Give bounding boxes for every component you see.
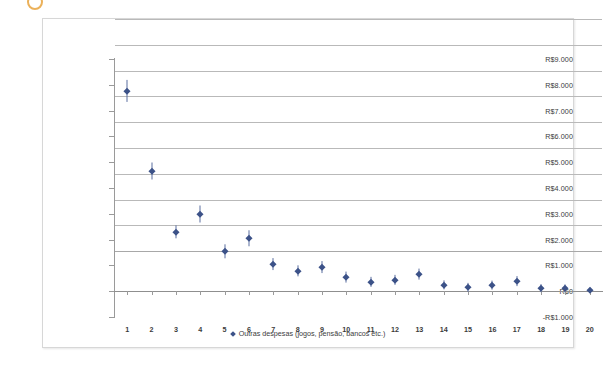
data-point-marker [148, 168, 154, 174]
data-point-marker [440, 282, 446, 288]
chart-legend: Outras despesas (jogos, pensão, bancos e… [43, 329, 573, 338]
chart-frame: R$9.000R$8.000R$7.000R$6.000R$5.000R$4.0… [42, 18, 574, 348]
data-point-marker [221, 248, 227, 254]
data-point-marker [197, 211, 203, 217]
data-point-marker [489, 282, 495, 288]
data-point-marker [562, 285, 568, 291]
legend-label: Outras despesas (jogos, pensão, bancos e… [239, 329, 386, 338]
data-point-marker [294, 267, 300, 273]
data-point-marker [124, 88, 130, 94]
data-point-marker [173, 229, 179, 235]
plot-area [115, 59, 602, 317]
data-point-marker [270, 261, 276, 267]
data-point-marker [416, 271, 422, 277]
data-point-marker [514, 278, 520, 284]
data-point-marker [392, 276, 398, 282]
data-point-marker [367, 279, 373, 285]
gridline [115, 45, 602, 46]
data-point-marker [538, 285, 544, 291]
x-axis-tick-label: 20 [586, 325, 594, 334]
data-point-marker [246, 235, 252, 241]
gridline [115, 19, 602, 20]
data-point-marker [343, 274, 349, 280]
data-point-marker [465, 284, 471, 290]
data-point-marker [319, 263, 325, 269]
legend-marker-icon [230, 331, 236, 337]
orange-circle-icon [27, 0, 43, 10]
data-point-marker [587, 286, 593, 292]
